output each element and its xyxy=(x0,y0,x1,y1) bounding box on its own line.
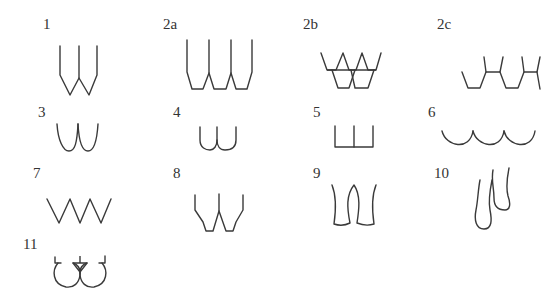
figure-5-shape xyxy=(335,126,373,147)
figure-4-shape xyxy=(200,127,236,150)
figure-7-shape xyxy=(47,199,111,223)
figure-10-shape xyxy=(475,168,509,229)
figure-2b-shape xyxy=(321,53,381,88)
figure-11-shape xyxy=(54,256,106,287)
figure-8-shape xyxy=(195,194,243,231)
figure-6-shape xyxy=(442,131,535,145)
figure-9-shape xyxy=(332,185,376,225)
figure-1-shape xyxy=(60,46,97,95)
figure-3-shape xyxy=(57,124,98,151)
diagram-canvas: 1 2a 2b 2c 3 4 5 6 7 8 9 10 11 xyxy=(0,0,558,304)
figure-2c-shape xyxy=(462,57,540,89)
figure-2a-shape xyxy=(187,40,252,89)
